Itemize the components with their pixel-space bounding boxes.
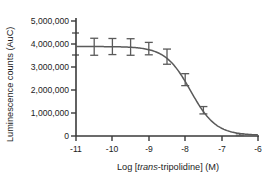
x-tick-label-1: -10 [106,144,119,154]
y-tick-label-5: 5,000,000 [31,16,69,26]
y-tick-label-4: 4,000,000 [31,39,69,49]
y-axis-title: Luminescence counts (AuC) [5,27,15,142]
x-tick-label-0: -11 [70,144,82,154]
y-tick-label-1: 1,000,000 [31,108,69,118]
y-tick-label-3: 3,000,000 [31,62,69,72]
x-tick-label-3: -8 [181,144,189,154]
chart-canvas: Luminescence counts (AuC) 0 1,000,000 2,… [0,0,268,179]
x-tick-label-2: -9 [145,144,153,154]
y-tick-label-2: 2,000,000 [31,85,69,95]
x-axis-title-italic: trans [137,162,158,172]
x-tick-label-4: -7 [218,144,226,154]
x-axis-title-post: -tripolidine] (M) [158,162,219,172]
y-axis-title-text: Luminescence counts (AuC) [5,27,15,142]
x-axis-title: Log [trans-tripolidine] (M) [117,162,219,172]
dose-response-chart-figure: Luminescence counts (AuC) 0 1,000,000 2,… [0,0,268,179]
x-tick-label-5: -6 [254,144,262,154]
x-axis-title-pre: Log [ [117,162,138,172]
y-tick-label-0: 0 [64,131,69,141]
